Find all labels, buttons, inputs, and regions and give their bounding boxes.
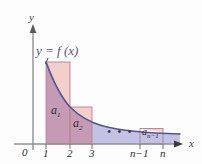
area-label-an-minus-1-sub: n−1 <box>147 132 159 140</box>
x-tick-label-1: 1 <box>43 148 49 159</box>
area-label-a2: a2 <box>73 117 83 132</box>
area-label-an-minus-1: an−1 <box>142 127 159 140</box>
area-label-a1-sub: 1 <box>57 111 61 119</box>
figure-canvas <box>0 0 202 164</box>
area-label-a1: a1 <box>51 104 61 119</box>
x-tick-label-2: 2 <box>67 148 73 159</box>
integral-test-figure: y x 0 y = f (x) 1 2 3 n−1 n a1 a2 an−1 •… <box>0 0 202 164</box>
x-tick-label-n-minus-1: n−1 <box>130 148 148 159</box>
curve-equation-label: y = f (x) <box>36 44 78 57</box>
area-label-a2-sub: 2 <box>79 124 83 132</box>
x-tick-label-n: n <box>160 148 166 159</box>
x-axis-label: x <box>189 138 194 149</box>
y-axis-arrowhead <box>30 24 37 33</box>
y-axis-label: y <box>29 12 34 23</box>
ellipsis-dots: • • • <box>107 126 133 138</box>
x-tick-label-3: 3 <box>89 148 95 159</box>
origin-label: 0 <box>22 147 28 158</box>
